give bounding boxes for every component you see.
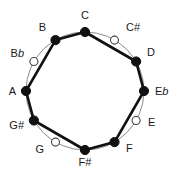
pitch-label-F#: F# <box>79 156 93 168</box>
pitch-node-E[interactable] <box>132 117 140 125</box>
pitch-node-Bb[interactable] <box>30 58 38 66</box>
pitch-label-Eb: Eb <box>155 85 168 97</box>
pitch-label-C: C <box>81 9 89 21</box>
scale-edge-Eb-F <box>115 91 145 142</box>
pitch-label-E: E <box>148 116 155 128</box>
pitch-letter-F: F <box>126 142 133 154</box>
pitch-node-D[interactable] <box>132 57 141 66</box>
pitch-nodes-layer <box>21 27 148 154</box>
pitch-accidental-G#: # <box>18 119 25 131</box>
pitch-label-F: F <box>126 142 133 154</box>
background-circle-layer <box>26 32 144 150</box>
outer-ring-circle <box>26 32 144 150</box>
pitch-letter-B: B <box>39 21 46 33</box>
pitch-letter-Bb: B <box>11 47 18 59</box>
pitch-class-circle-diagram: CC#DEbEFF#GG#ABbB <box>0 0 178 178</box>
scale-polygon-edges <box>26 32 144 150</box>
pitch-letter-C: C <box>81 9 89 21</box>
pitch-letter-A: A <box>9 85 17 97</box>
pitch-accidental-C#: # <box>134 21 141 33</box>
pitch-letter-G#: G <box>9 119 18 131</box>
pitch-node-F#[interactable] <box>80 145 89 154</box>
pitch-node-Eb[interactable] <box>139 86 148 95</box>
pitch-label-G: G <box>35 143 44 155</box>
pitch-node-G#[interactable] <box>29 116 38 125</box>
pitch-accidental-Eb: b <box>162 85 168 97</box>
scale-edge-C-D <box>85 32 136 62</box>
pitch-node-C#[interactable] <box>111 36 119 44</box>
pitch-label-D: D <box>147 46 155 58</box>
pitch-accidental-F#: # <box>85 156 92 168</box>
pitch-node-A[interactable] <box>21 86 30 95</box>
pitch-letter-G: G <box>35 143 44 155</box>
pitch-letter-Eb: E <box>155 85 162 97</box>
pitch-node-G[interactable] <box>52 138 60 146</box>
pitch-circle-svg: CC#DEbEFF#GG#ABbB <box>0 0 178 178</box>
pitch-label-C#: C# <box>126 21 141 33</box>
pitch-letter-C#: C <box>126 21 134 33</box>
pitch-label-Bb: Bb <box>11 47 24 59</box>
pitch-letter-E: E <box>148 116 155 128</box>
pitch-label-A: A <box>9 85 17 97</box>
scale-edge-A-B <box>26 40 56 91</box>
pitch-node-F[interactable] <box>110 138 119 147</box>
pitch-node-B[interactable] <box>51 36 60 45</box>
pitch-accidental-Bb: b <box>18 47 24 59</box>
pitch-node-C[interactable] <box>80 27 89 36</box>
pitch-label-B: B <box>39 21 46 33</box>
pitch-letter-D: D <box>147 46 155 58</box>
pitch-label-G#: G# <box>9 119 25 131</box>
